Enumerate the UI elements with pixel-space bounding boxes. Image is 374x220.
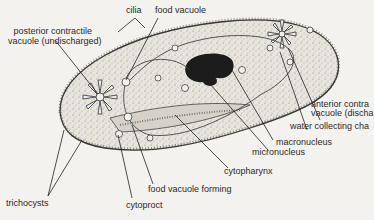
label-food-vacuole: food vacuole [155, 5, 206, 15]
label-food-vacuole-forming: food vacuole forming [148, 184, 232, 194]
label-trichocysts: trichocysts [6, 198, 49, 208]
label-posterior-cv-2: vacuole (undischarged) [8, 36, 102, 46]
label-macronucleus: macronucleus [276, 137, 332, 147]
label-cilia: cilia [126, 5, 142, 15]
label-cytopharynx: cytopharynx [224, 166, 273, 176]
label-anterior-cv-2: vacuole (discha [311, 108, 374, 118]
label-cytoproct: cytoproct [126, 200, 163, 210]
label-posterior-cv-1: posterior contractile [6, 26, 92, 36]
label-water-collecting: water collecting cha [290, 121, 369, 131]
label-micronucleus: micronucleus [252, 147, 305, 157]
posterior-contractile-vacuole [83, 80, 117, 114]
